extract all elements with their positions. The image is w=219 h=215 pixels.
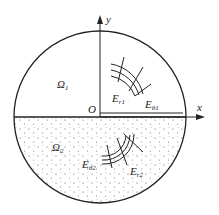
- y-axis-label: y: [105, 13, 111, 25]
- region-omega1-label: Ω1: [57, 78, 68, 92]
- diagram-canvas: y x O Ω1 Ω2 Er1 Eθ1 Eθ2 Er2: [0, 0, 219, 215]
- field-label-etheta1: Eθ1: [144, 98, 159, 112]
- field-label-er1: Er1: [111, 92, 125, 106]
- x-axis-label: x: [196, 101, 202, 113]
- origin-label: O: [88, 103, 96, 115]
- y-axis: [97, 15, 103, 117]
- upper-field-lines: [111, 57, 151, 96]
